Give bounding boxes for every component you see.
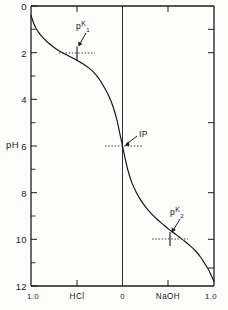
x-tick-label-left: 1.0 [27,292,39,301]
pk2-label: pK2 [170,206,184,219]
y-tick-label-6: 6 [21,141,27,152]
pk1-label: pK1 [76,20,90,33]
x-tick-label-right: 1.0 [205,292,217,301]
pk2-arrow-line [173,219,180,231]
y-tick-label-0: 0 [21,1,27,12]
pk1-arrow-line [80,33,87,45]
ip-label: IP [139,129,148,139]
y-tick-label-2: 2 [21,48,27,59]
y-tick-label-8: 8 [21,188,27,199]
y-axis-major-ticks [31,6,37,286]
x-category-label-hcl: HCl [70,292,85,301]
x-tick-label-center: 0 [120,292,125,301]
y-axis-right-ticks [208,29,214,268]
y-tick-label-4: 4 [21,94,27,105]
y-tick-label-10: 10 [16,234,27,245]
x-axis-tick-labels: 1.0 HCl 0 NaOH 1.0 [27,292,217,301]
annotation-ip: IP [105,129,148,146]
pk2-arrow-head [172,228,176,233]
titration-curve-figure: 0 2 4 6 8 10 12 pH 1.0 HCl 0 NaOH 1.0 pK… [0,0,228,310]
x-category-label-naoh: NaOH [156,292,180,301]
pk2-label-sub: 2 [180,212,184,219]
chart-svg: 0 2 4 6 8 10 12 pH 1.0 HCl 0 NaOH 1.0 pK… [0,0,228,310]
pk1-label-sub: 1 [86,26,90,33]
y-axis-title: pH [6,139,19,150]
y-tick-label-12: 12 [16,281,27,292]
